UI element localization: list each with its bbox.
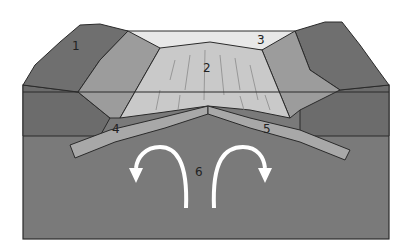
label-3: 3 (257, 33, 265, 47)
label-2: 2 (203, 61, 211, 75)
label-4: 4 (112, 122, 120, 136)
label-6: 6 (195, 165, 203, 179)
cross-section-diagram: 1 2 3 4 5 6 (0, 0, 416, 252)
label-1: 1 (72, 39, 80, 53)
label-5: 5 (263, 122, 271, 136)
